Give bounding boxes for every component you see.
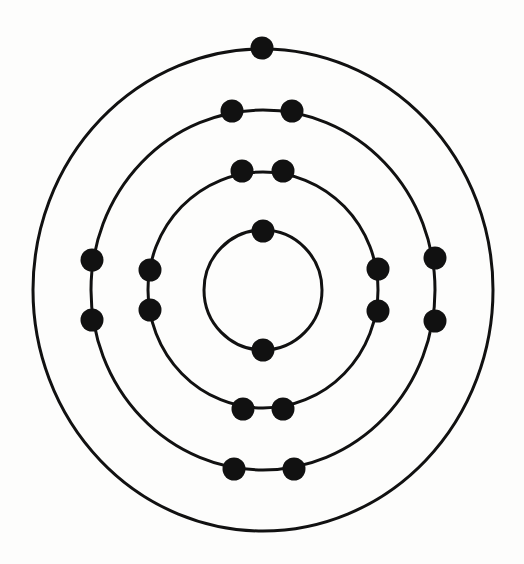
electron-dot (252, 339, 275, 362)
shell-orbit-ring (204, 230, 322, 350)
electron-dot (139, 259, 162, 282)
electron-dot (223, 458, 246, 481)
electron-dot (367, 300, 390, 323)
electron-dot (424, 310, 447, 333)
electron-dot (251, 37, 274, 60)
electron-dot (272, 160, 295, 183)
electron-dot (232, 398, 255, 421)
electron-dot (139, 299, 162, 322)
electron-dot (367, 258, 390, 281)
atom-svg (0, 0, 524, 564)
electron-dot (81, 249, 104, 272)
electron-dot (281, 100, 304, 123)
electron-dot (272, 398, 295, 421)
electron-dot (231, 160, 254, 183)
electron-dot (81, 309, 104, 332)
shell-3 (81, 100, 447, 481)
shell-1 (204, 220, 322, 362)
electron-dot (221, 100, 244, 123)
shell-orbit-ring (148, 172, 378, 408)
bohr-atom-diagram: Bohr model electron shells (0, 0, 524, 564)
shell-2 (139, 160, 390, 421)
electron-dot (283, 458, 306, 481)
electron-dot (424, 247, 447, 270)
electron-dot (252, 220, 275, 243)
shell-orbit-ring (33, 49, 493, 531)
shell-orbit-ring (91, 110, 435, 470)
